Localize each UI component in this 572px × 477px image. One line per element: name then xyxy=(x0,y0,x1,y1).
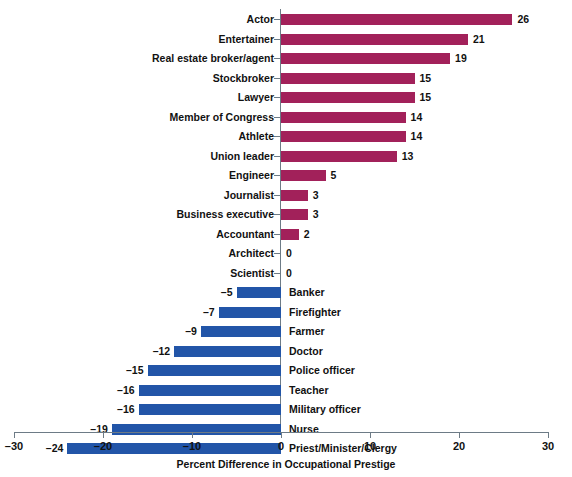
value-label: 3 xyxy=(313,205,319,225)
value-label: –9 xyxy=(0,322,197,342)
chart-row: Firefighter–7 xyxy=(0,303,572,323)
value-label: 21 xyxy=(473,30,485,50)
category-label: Accountant xyxy=(216,225,274,245)
x-axis-tick-label: –10 xyxy=(183,440,201,452)
category-tick-mark xyxy=(274,156,280,157)
category-label: Journalist xyxy=(224,186,274,206)
value-label: 15 xyxy=(420,69,432,89)
x-axis-tick xyxy=(459,432,460,438)
bar-negative xyxy=(174,346,281,357)
category-label: Farmer xyxy=(289,322,325,342)
category-label: Architect xyxy=(228,244,274,264)
chart-row: Architect0 xyxy=(0,244,572,264)
category-tick-mark xyxy=(274,39,280,40)
category-label: Real estate broker/agent xyxy=(152,49,274,69)
bar-positive xyxy=(281,34,468,45)
value-label: 5 xyxy=(331,166,337,186)
chart-row: Stockbroker15 xyxy=(0,69,572,89)
chart-row: Business executive3 xyxy=(0,205,572,225)
category-label: Priest/Minister/Clergy xyxy=(289,439,397,459)
category-label: Union leader xyxy=(210,147,274,167)
value-label: 14 xyxy=(411,127,423,147)
category-label: Teacher xyxy=(289,381,329,401)
bar-positive xyxy=(281,229,299,240)
category-label: Military officer xyxy=(289,400,361,420)
value-label: –7 xyxy=(0,303,215,323)
bar-negative xyxy=(237,287,282,298)
category-label: Engineer xyxy=(229,166,274,186)
category-tick-mark xyxy=(274,78,280,79)
x-axis-tick xyxy=(192,432,193,438)
bar-positive xyxy=(281,112,406,123)
category-label: Police officer xyxy=(289,361,355,381)
bar-positive xyxy=(281,92,415,103)
value-label: 15 xyxy=(420,88,432,108)
x-axis-tick xyxy=(103,432,104,438)
chart-row: Doctor–12 xyxy=(0,342,572,362)
value-label: 13 xyxy=(402,147,414,167)
category-tick-mark xyxy=(274,214,280,215)
category-label: Lawyer xyxy=(238,88,274,108)
bar-negative xyxy=(219,307,281,318)
value-label: 19 xyxy=(455,49,467,69)
x-axis-tick-label: –20 xyxy=(94,440,112,452)
chart-row: Member of Congress14 xyxy=(0,108,572,128)
value-label: 0 xyxy=(286,244,292,264)
category-label: Business executive xyxy=(177,205,274,225)
chart-row: Journalist3 xyxy=(0,186,572,206)
plot-area: Actor26Entertainer21Real estate broker/a… xyxy=(0,0,572,430)
x-axis-title: Percent Difference in Occupational Prest… xyxy=(0,458,572,470)
chart-row: Scientist0 xyxy=(0,264,572,284)
bar-positive xyxy=(281,53,450,64)
category-label: Nurse xyxy=(289,420,319,440)
category-tick-mark xyxy=(274,97,280,98)
x-axis-tick-label: 30 xyxy=(542,440,554,452)
value-label: 26 xyxy=(517,10,529,30)
x-axis-tick xyxy=(370,432,371,438)
chart-row: Union leader13 xyxy=(0,147,572,167)
x-axis-tick-label: 20 xyxy=(453,440,465,452)
bar-negative xyxy=(139,385,281,396)
category-label: Doctor xyxy=(289,342,323,362)
category-tick-mark xyxy=(274,117,280,118)
category-label: Scientist xyxy=(230,264,274,284)
category-tick-mark xyxy=(274,253,280,254)
chart-row: Military officer–16 xyxy=(0,400,572,420)
category-label: Actor xyxy=(247,10,274,30)
bar-positive xyxy=(281,190,308,201)
bar-negative xyxy=(201,326,281,337)
chart-row: Accountant2 xyxy=(0,225,572,245)
chart-row: Real estate broker/agent19 xyxy=(0,49,572,69)
chart-row: Farmer–9 xyxy=(0,322,572,342)
chart-row: Lawyer15 xyxy=(0,88,572,108)
bar-positive xyxy=(281,151,397,162)
chart-row: Actor26 xyxy=(0,10,572,30)
x-axis-tick xyxy=(548,432,549,438)
bar-positive xyxy=(281,170,326,181)
category-tick-mark xyxy=(274,273,280,274)
category-label: Athlete xyxy=(238,127,274,147)
category-tick-mark xyxy=(274,234,280,235)
chart-row: Priest/Minister/Clergy–24 xyxy=(0,439,572,459)
x-axis-tick xyxy=(14,432,15,438)
category-label: Stockbroker xyxy=(213,69,274,89)
x-axis-tick-label: 0 xyxy=(278,440,284,452)
category-label: Member of Congress xyxy=(170,108,274,128)
category-tick-mark xyxy=(274,58,280,59)
x-axis-tick-label: –30 xyxy=(5,440,23,452)
bar-positive xyxy=(281,209,308,220)
chart-row: Athlete14 xyxy=(0,127,572,147)
value-label: –12 xyxy=(0,342,170,362)
category-tick-mark xyxy=(274,136,280,137)
chart-row: Banker–5 xyxy=(0,283,572,303)
x-axis-tick-label: 10 xyxy=(364,440,376,452)
category-tick-mark xyxy=(274,195,280,196)
occupational-prestige-bar-chart: Actor26Entertainer21Real estate broker/a… xyxy=(0,0,572,477)
value-label: –16 xyxy=(0,400,135,420)
category-label: Banker xyxy=(289,283,325,303)
value-label: –16 xyxy=(0,381,135,401)
value-label: –15 xyxy=(0,361,144,381)
value-label: –5 xyxy=(0,283,233,303)
value-label: 2 xyxy=(304,225,310,245)
chart-row: Entertainer21 xyxy=(0,30,572,50)
